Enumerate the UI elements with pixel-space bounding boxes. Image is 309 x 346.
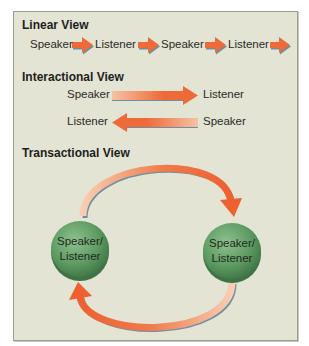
interactional-row1-speaker: Speaker <box>67 88 110 100</box>
linear-view-heading: Linear View <box>22 18 88 32</box>
linear-arrow-icon <box>205 37 227 55</box>
linear-arrow-icon <box>138 37 160 55</box>
arrow-right-icon <box>112 86 198 105</box>
left-node-label: Speaker/ Listener <box>51 234 109 264</box>
arc-arrow-top-icon <box>83 168 242 218</box>
linear-node-speaker-1: Speaker <box>30 38 73 50</box>
interactional-row1-listener: Listener <box>203 88 244 100</box>
arc-arrow-bottom-icon <box>69 282 234 329</box>
arrow-left-icon <box>112 113 198 132</box>
linear-arrow-icon <box>270 37 291 55</box>
interactional-row2-speaker: Speaker <box>203 115 246 127</box>
linear-arrow-icon <box>72 37 94 55</box>
right-node-label: Speaker/ Listener <box>203 236 261 266</box>
transactional-view-heading: Transactional View <box>22 146 130 160</box>
linear-node-listener-1: Listener <box>95 38 136 50</box>
linear-node-speaker-2: Speaker <box>161 38 204 50</box>
interactional-view-heading: Interactional View <box>22 70 124 84</box>
interactional-row2-listener: Listener <box>67 115 108 127</box>
diagram-graphics <box>0 0 309 346</box>
linear-node-listener-2: Listener <box>228 38 269 50</box>
